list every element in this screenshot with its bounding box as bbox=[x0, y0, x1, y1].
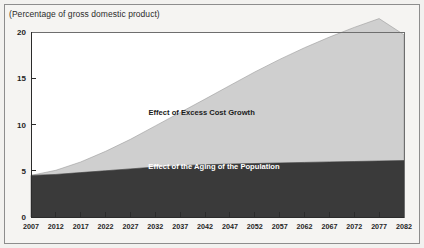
x-tick-label: 2057 bbox=[272, 222, 288, 231]
y-tick-label: 15 bbox=[17, 74, 26, 83]
x-tick-label: 2042 bbox=[197, 222, 213, 231]
x-tick-label: 2067 bbox=[321, 222, 337, 231]
x-tick-label: 2022 bbox=[98, 222, 114, 231]
area-chart: 0510152020072012201720222027203220372042… bbox=[0, 0, 424, 248]
x-tick-label: 2007 bbox=[23, 222, 39, 231]
x-tick-label: 2027 bbox=[122, 222, 138, 231]
y-tick-label: 5 bbox=[22, 167, 27, 176]
x-tick-label: 2082 bbox=[396, 222, 412, 231]
figure-container: (Percentage of gross domestic product) 0… bbox=[0, 0, 424, 248]
x-tick-label: 2012 bbox=[48, 222, 64, 231]
y-tick-label: 10 bbox=[17, 121, 26, 130]
x-tick-label: 2077 bbox=[371, 222, 387, 231]
x-tick-label: 2037 bbox=[172, 222, 188, 231]
series-label-aging-of-population: Effect of the Aging of the Population bbox=[148, 162, 280, 171]
series-label-excess-cost-growth: Effect of Excess Cost Growth bbox=[148, 108, 255, 117]
x-tick-label: 2047 bbox=[222, 222, 238, 231]
x-tick-label: 2017 bbox=[73, 222, 89, 231]
x-tick-label: 2062 bbox=[297, 222, 313, 231]
chart-plot-area: 0510152020072012201720222027203220372042… bbox=[0, 0, 424, 248]
x-tick-label: 2052 bbox=[247, 222, 263, 231]
x-tick-label: 2032 bbox=[147, 222, 163, 231]
y-tick-label: 20 bbox=[17, 28, 26, 37]
y-tick-label: 0 bbox=[22, 213, 27, 222]
x-tick-label: 2072 bbox=[346, 222, 362, 231]
